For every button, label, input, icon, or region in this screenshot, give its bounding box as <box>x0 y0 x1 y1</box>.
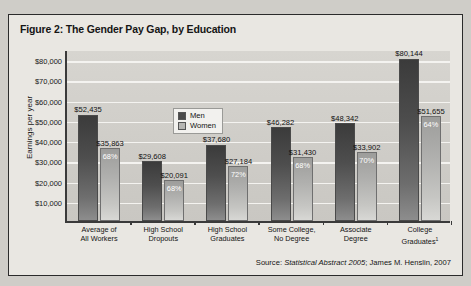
source-note: Source: Statistical Abstract 2005; James… <box>256 258 451 267</box>
y-axis-tick-label: $50,000 <box>35 117 62 126</box>
x-axis-category-label: Some College,No Degree <box>268 226 316 243</box>
bar-value-label-women: $27,184 <box>225 157 252 166</box>
bar-group: $29,608$20,09168%High SchoolDropouts <box>131 51 195 221</box>
legend-label-women: Women <box>190 121 216 131</box>
source-rest: ; James M. Henslin, 2007 <box>365 258 451 267</box>
bar-value-label-men: $48,342 <box>331 114 358 123</box>
bar-value-label-women: $35,863 <box>96 139 123 148</box>
legend-swatch-women-icon <box>178 122 186 130</box>
bar-value-label-men: $37,680 <box>203 135 230 144</box>
bar-men: $80,144 <box>399 59 419 221</box>
y-axis-tick-label: $60,000 <box>35 97 62 106</box>
y-axis-tick-label: $20,000 <box>35 178 62 187</box>
x-axis-tick-mark <box>130 221 131 225</box>
bar-percent-label-women: 70% <box>359 156 374 165</box>
bar-group: $80,144$51,65564%CollegeGraduates1 <box>388 51 452 221</box>
figure-panel: Figure 2: The Gender Pay Gap, by Educati… <box>8 14 463 276</box>
bar-group: $48,342$33,90270%AssociateDegree <box>324 51 388 221</box>
y-axis-tick-label: $70,000 <box>35 77 62 86</box>
bar-men: $29,608 <box>142 161 162 221</box>
x-axis-category-label: CollegeGraduates1 <box>401 226 438 247</box>
x-axis-tick-mark <box>258 221 259 225</box>
bar-percent-label-women: 68% <box>103 152 118 161</box>
figure-title: Figure 2: The Gender Pay Gap, by Educati… <box>20 23 236 35</box>
y-axis-tick-label: $10,000 <box>35 198 62 207</box>
y-axis-title: Earnings per year <box>25 68 34 188</box>
plot-area-wrapper: $10,000$20,000$30,000$40,000$50,000$60,0… <box>65 51 450 223</box>
bar-value-label-men: $52,435 <box>74 105 101 114</box>
x-axis-tick-mark <box>387 221 388 225</box>
bar-percent-label-women: 68% <box>295 161 310 170</box>
bar-women: $27,18472% <box>228 166 248 221</box>
y-axis-tick-label: $30,000 <box>35 158 62 167</box>
bar-women: $31,43068% <box>293 157 313 221</box>
y-axis-tick-label: $80,000 <box>35 57 62 66</box>
bar-value-label-women: $51,655 <box>417 107 444 116</box>
plot-area: $10,000$20,000$30,000$40,000$50,000$60,0… <box>65 51 450 223</box>
legend-swatch-men-icon <box>178 112 186 120</box>
bar-group: $37,680$27,18472%High SchoolGraduates <box>195 51 259 221</box>
source-publication: Statistical Abstract 2005 <box>284 258 365 267</box>
x-axis-category-label: High SchoolDropouts <box>144 226 183 243</box>
x-axis-category-label: Average ofAll Workers <box>80 226 117 243</box>
bar-value-label-women: $33,902 <box>353 143 380 152</box>
bar-women: $20,09168% <box>164 180 184 221</box>
bar-men: $52,435 <box>78 115 98 221</box>
bar-group: $46,282$31,43068%Some College,No Degree <box>260 51 324 221</box>
bar-value-label-women: $20,091 <box>161 171 188 180</box>
y-axis-tick-label: $40,000 <box>35 138 62 147</box>
legend-label-men: Men <box>190 111 205 121</box>
bar-value-label-men: $29,608 <box>139 152 166 161</box>
bar-value-label-men: $80,144 <box>395 49 422 58</box>
x-axis-tick-mark <box>451 221 452 225</box>
chart-legend: Men Women <box>173 108 223 134</box>
bar-women: $35,86368% <box>100 148 120 221</box>
bar-women: $51,65564% <box>421 116 441 221</box>
bar-percent-label-women: 68% <box>167 184 182 193</box>
bar-percent-label-women: 64% <box>424 120 439 129</box>
bar-percent-label-women: 72% <box>231 170 246 179</box>
bar-men: $48,342 <box>335 123 355 221</box>
x-axis-tick-mark <box>323 221 324 225</box>
bar-group: $52,435$35,86368%Average ofAll Workers <box>67 51 131 221</box>
x-axis-tick-mark <box>194 221 195 225</box>
legend-item-men: Men <box>178 111 216 121</box>
bar-men: $46,282 <box>271 127 291 221</box>
source-prefix: Source: <box>256 258 282 267</box>
bar-value-label-men: $46,282 <box>267 118 294 127</box>
x-axis-category-label: High SchoolGraduates <box>208 226 247 243</box>
legend-item-women: Women <box>178 121 216 131</box>
bar-value-label-women: $31,430 <box>289 148 316 157</box>
bar-women: $33,90270% <box>357 152 377 221</box>
bar-men: $37,680 <box>206 145 226 221</box>
x-axis-category-label: AssociateDegree <box>340 226 372 243</box>
